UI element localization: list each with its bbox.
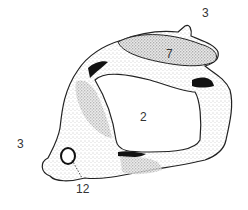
label-7: 7	[166, 48, 173, 60]
vertebra-drawing	[0, 0, 248, 210]
label-2: 2	[140, 111, 147, 123]
label-3-left: 3	[17, 138, 24, 150]
transverse-foramen-12	[61, 148, 75, 164]
label-12: 12	[76, 183, 89, 195]
label-3-top-right: 3	[202, 7, 209, 19]
